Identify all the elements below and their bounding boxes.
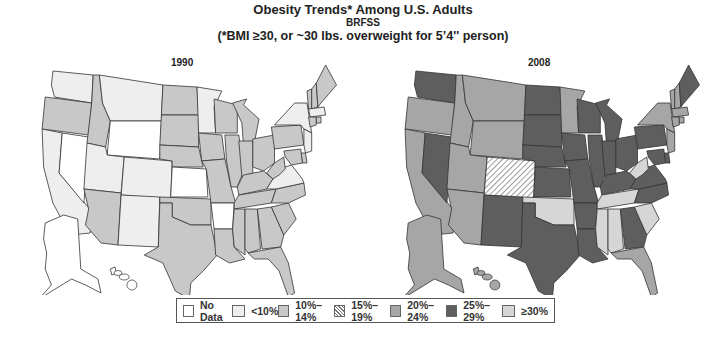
state-md (284, 149, 303, 165)
state-ks (534, 167, 571, 197)
state-ks (171, 167, 208, 197)
legend-item: No Data (183, 299, 232, 323)
legend-label: <10% (251, 305, 278, 317)
state-co (121, 157, 172, 199)
state-hi-island (482, 274, 492, 280)
legend-swatch (232, 305, 245, 317)
legend-item: 15%–19% (334, 299, 390, 323)
state-me (679, 65, 699, 107)
state-az (447, 189, 484, 245)
legend-item: 20%–24% (390, 299, 446, 323)
state-az (84, 189, 121, 245)
legend-swatch (502, 305, 515, 317)
chart-header: Obesity Trends* Among U.S. Adults BRFSS … (0, 2, 726, 44)
state-ma (309, 107, 326, 117)
state-fl (248, 247, 295, 295)
legend-item: ≥30% (502, 305, 548, 317)
map-legend: No Data<10%10%–14%15%–19%20%–24%25%–29%≥… (176, 298, 555, 323)
state-nm (481, 195, 523, 247)
legend-label: 10%–14% (295, 299, 334, 323)
legend-label: 25%–29% (463, 299, 502, 323)
state-or (405, 97, 455, 135)
state-ri (316, 117, 321, 123)
state-co (484, 157, 535, 199)
state-mt (99, 75, 162, 121)
state-nj (667, 129, 675, 153)
state-oh (616, 135, 638, 171)
map-1990 (0, 55, 363, 295)
state-wa (414, 71, 456, 103)
legend-swatch (334, 305, 345, 317)
state-nd (161, 85, 198, 115)
state-sd (160, 115, 199, 147)
state-ma (672, 107, 689, 117)
state-ct (309, 117, 317, 127)
legend-label: No Data (200, 299, 232, 323)
state-md (647, 149, 666, 165)
legend-item: 25%–29% (446, 299, 502, 323)
state-ia (199, 133, 225, 161)
legend-label: 20%–24% (407, 299, 446, 323)
state-me (316, 65, 336, 107)
state-pa (271, 125, 304, 149)
chart-footnote: (*BMI ≥30, or ~30 lbs. overweight for 5’… (0, 29, 726, 44)
state-nm (118, 195, 160, 247)
state-fl (611, 247, 658, 295)
state-ar (574, 203, 597, 229)
state-or (42, 97, 92, 135)
state-wa (51, 71, 93, 103)
chart-title: Obesity Trends* Among U.S. Adults (0, 2, 726, 17)
state-mt (462, 75, 526, 121)
state-nd (524, 85, 561, 115)
state-hi-island (119, 274, 129, 280)
state-wy (107, 121, 161, 159)
state-pa (634, 125, 667, 149)
state-ar (211, 203, 234, 229)
state-hi-island (127, 280, 137, 290)
legend-label: ≥30% (521, 305, 548, 317)
state-oh (253, 135, 275, 171)
state-ct (672, 117, 680, 127)
state-hi-island (490, 280, 500, 290)
legend-label: 15%–19% (351, 299, 390, 323)
legend-item: 10%–14% (278, 299, 334, 323)
state-ia (562, 133, 588, 161)
map-2008 (363, 55, 726, 295)
legend-swatch (183, 305, 194, 317)
state-wy (470, 121, 524, 159)
legend-swatch (278, 305, 289, 317)
state-ri (679, 117, 684, 123)
state-nj (304, 129, 312, 153)
state-sd (523, 115, 562, 147)
chart-source: BRFSS (0, 17, 726, 29)
legend-item: <10% (232, 305, 278, 317)
legend-swatch (390, 305, 401, 317)
legend-swatch (446, 305, 457, 317)
